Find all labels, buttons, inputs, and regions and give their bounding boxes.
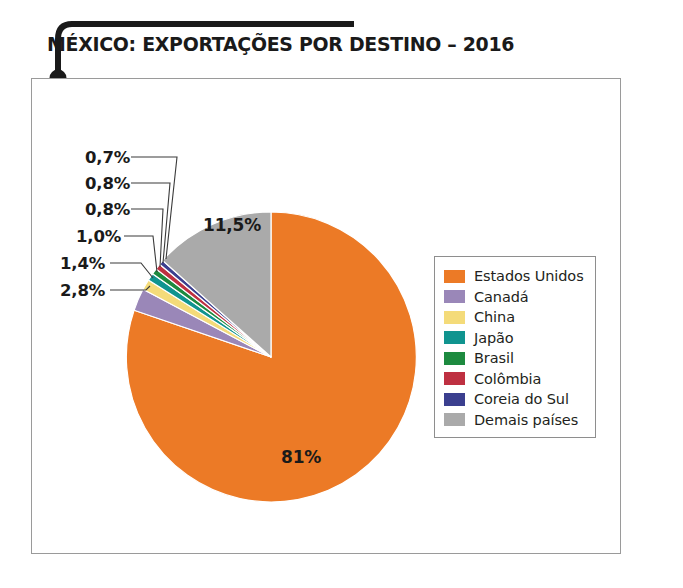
callout-label-coreia-do-sul: 0,7% [74, 148, 130, 167]
inner-label-estados-unidos: 81% [281, 447, 321, 467]
legend-label-canada: Canadá [474, 289, 529, 305]
leader-line-brasil [131, 209, 163, 267]
legend-label-china: China [474, 309, 515, 325]
legend-item-brasil[interactable]: Brasil [444, 348, 595, 369]
pie-slices [126, 212, 416, 502]
legend-item-japao[interactable]: Japão [444, 328, 595, 349]
callout-label-colombia: 0,8% [74, 174, 130, 193]
legend-item-colombia[interactable]: Colômbia [444, 369, 595, 390]
legend-label-japao: Japão [474, 330, 514, 346]
legend-label-estados-unidos: Estados Unidos [474, 268, 584, 284]
legend-item-canada[interactable]: Canadá [444, 287, 595, 308]
legend: Estados Unidos Canadá China Japão Brasil… [434, 256, 596, 438]
legend-swatch-estados-unidos [444, 270, 465, 283]
legend-label-colombia: Colômbia [474, 371, 541, 387]
legend-swatch-japao [444, 331, 465, 344]
legend-swatch-demais-paises [444, 413, 465, 426]
callout-label-china: 1,4% [48, 254, 105, 273]
inner-label-demais-paises: 11,5% [203, 215, 261, 235]
leader-line-china [110, 263, 153, 278]
leader-line-colombia [131, 183, 170, 263]
legend-item-demais-paises[interactable]: Demais países [444, 410, 595, 431]
legend-label-demais-paises: Demais países [474, 412, 578, 428]
callout-label-japao: 1,0% [64, 227, 121, 246]
callout-label-brasil: 0,8% [74, 200, 130, 219]
legend-label-coreia-do-sul: Coreia do Sul [474, 391, 569, 407]
callout-label-canada: 2,8% [48, 281, 105, 300]
legend-swatch-coreia-do-sul [444, 393, 465, 406]
legend-item-coreia-do-sul[interactable]: Coreia do Sul [444, 389, 595, 410]
legend-item-china[interactable]: China [444, 307, 595, 328]
leader-line-japao [124, 236, 157, 272]
legend-swatch-canada [444, 290, 465, 303]
legend-swatch-china [444, 311, 465, 324]
legend-swatch-colombia [444, 372, 465, 385]
legend-swatch-brasil [444, 352, 465, 365]
legend-item-estados-unidos[interactable]: Estados Unidos [444, 266, 595, 287]
legend-label-brasil: Brasil [474, 350, 514, 366]
